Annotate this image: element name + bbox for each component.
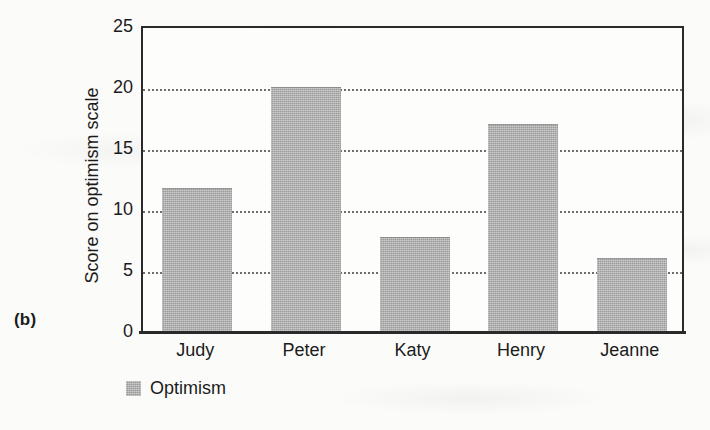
x-tick-label-judy: Judy: [176, 340, 214, 361]
x-tick-label-peter: Peter: [282, 340, 325, 361]
panel-label: (b): [14, 310, 36, 330]
y-tick-label-5: 5: [89, 260, 133, 281]
bar-katy: [380, 237, 450, 331]
bar-chart-figure: (b) Score on optimism scale 0510152025 J…: [0, 0, 710, 430]
legend: Optimism: [126, 378, 226, 399]
bar-jeanne: [597, 258, 667, 331]
y-tick-label-20: 20: [89, 77, 133, 98]
x-tick-label-henry: Henry: [497, 340, 545, 361]
y-tick-label-25: 25: [89, 16, 133, 37]
x-axis-baseline: [139, 331, 686, 334]
x-tick-label-katy: Katy: [394, 340, 430, 361]
y-tick-label-0: 0: [89, 321, 133, 342]
plot-area: [141, 26, 684, 331]
legend-label-optimism: Optimism: [150, 378, 226, 399]
y-tick-label-10: 10: [89, 199, 133, 220]
legend-swatch-optimism: [126, 381, 141, 396]
bar-series-optimism: [143, 28, 682, 331]
bar-peter: [271, 87, 341, 331]
x-tick-label-jeanne: Jeanne: [600, 340, 659, 361]
bar-judy: [162, 188, 232, 331]
bar-henry: [488, 124, 558, 331]
y-axis-tick-labels: 0510152025: [85, 26, 133, 331]
y-tick-label-15: 15: [89, 138, 133, 159]
